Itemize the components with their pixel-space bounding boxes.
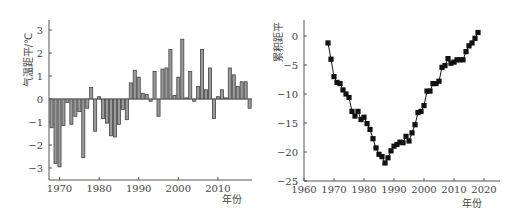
x-tick-label: 1990: [126, 183, 151, 194]
charts-canvas: −3−2−1012319701980199020002010气温距平/℃年份 −…: [0, 0, 522, 224]
x-tick-label: 1980: [86, 183, 111, 194]
data-marker: [463, 49, 468, 54]
data-marker: [346, 95, 351, 100]
cumulative-anomaly-line-chart: −25−20−15−10−501960197019801990200020102…: [273, 20, 500, 209]
bar: [197, 86, 200, 99]
bar: [189, 71, 192, 99]
data-marker: [460, 57, 465, 62]
x-axis-title: 年份: [222, 193, 242, 205]
bar: [54, 99, 57, 163]
data-marker: [325, 40, 330, 45]
bar: [212, 99, 215, 119]
bar: [240, 82, 243, 99]
bar: [78, 99, 81, 112]
data-marker: [367, 127, 372, 132]
data-marker: [400, 140, 405, 145]
bar: [62, 99, 65, 125]
bar: [232, 75, 235, 99]
data-marker: [445, 56, 450, 61]
data-marker: [388, 148, 393, 153]
bar: [153, 71, 156, 99]
data-marker: [418, 109, 423, 114]
x-axis-title: 年份: [462, 197, 482, 209]
data-marker: [421, 103, 426, 108]
bar: [86, 99, 89, 108]
data-marker: [328, 57, 333, 62]
y-tick-label: 2: [37, 48, 43, 59]
bar: [173, 96, 176, 99]
bar: [113, 99, 116, 137]
bar: [66, 99, 69, 102]
data-marker: [379, 154, 384, 159]
bar: [224, 98, 227, 99]
bar: [109, 99, 112, 136]
x-tick-label: 2020: [471, 184, 496, 195]
bar: [137, 77, 140, 99]
data-marker: [382, 160, 387, 165]
y-tick-label: 1: [37, 71, 43, 82]
y-axis-title: 气温距平/℃: [22, 33, 34, 88]
x-tick-label: 1970: [321, 184, 346, 195]
y-tick-label: −15: [277, 118, 298, 129]
x-tick-label: 2010: [205, 183, 230, 194]
bar: [105, 99, 108, 123]
bar: [58, 99, 61, 167]
y-tick-label: −10: [277, 89, 298, 100]
bar: [161, 69, 164, 99]
data-marker: [361, 115, 366, 120]
y-tick-label: −2: [28, 140, 43, 151]
x-tick-label: 1990: [381, 184, 406, 195]
data-marker: [406, 138, 411, 143]
bar: [181, 39, 184, 99]
temperature-anomaly-bar-chart: −3−2−1012319701980199020002010气温距平/℃年份: [22, 20, 252, 205]
bar: [98, 97, 101, 99]
data-marker: [436, 79, 441, 84]
bar: [244, 82, 247, 99]
x-tick-label: 2010: [441, 184, 466, 195]
bar: [208, 68, 211, 99]
bar: [185, 98, 188, 99]
y-tick-label: −3: [28, 163, 43, 174]
bar: [177, 77, 180, 99]
bar: [82, 99, 85, 158]
bar: [102, 99, 105, 119]
y-axis-title: 累积距平: [273, 22, 284, 62]
data-marker: [373, 145, 378, 150]
data-marker: [370, 136, 375, 141]
y-tick-label: 3: [37, 25, 43, 36]
bar: [117, 99, 120, 124]
bar: [70, 99, 73, 124]
data-marker: [331, 74, 336, 79]
bar: [248, 99, 251, 108]
data-marker: [355, 109, 360, 114]
bar: [90, 88, 93, 100]
bar: [133, 70, 136, 99]
data-marker: [337, 81, 342, 86]
y-tick-label: −20: [277, 147, 298, 158]
data-marker: [469, 40, 474, 45]
data-marker: [475, 30, 480, 35]
x-tick-label: 1960: [291, 184, 316, 195]
data-marker: [427, 89, 432, 94]
data-marker: [385, 155, 390, 160]
bar: [193, 99, 196, 101]
y-tick-label: 0: [292, 31, 298, 42]
y-tick-label: −1: [28, 117, 43, 128]
bar: [94, 99, 97, 131]
bar: [201, 50, 204, 99]
data-marker: [442, 63, 447, 68]
bar: [216, 97, 219, 99]
bar: [121, 99, 124, 109]
bar: [145, 94, 148, 99]
data-marker: [403, 134, 408, 139]
x-tick-label: 2000: [411, 184, 436, 195]
bar: [157, 99, 160, 116]
data-marker: [364, 121, 369, 126]
x-tick-label: 1980: [351, 184, 376, 195]
x-tick-label: 1970: [47, 183, 72, 194]
data-marker: [409, 130, 414, 135]
bar: [129, 83, 132, 99]
bar: [236, 86, 239, 99]
y-tick-label: 0: [37, 94, 43, 105]
bar: [165, 68, 168, 99]
